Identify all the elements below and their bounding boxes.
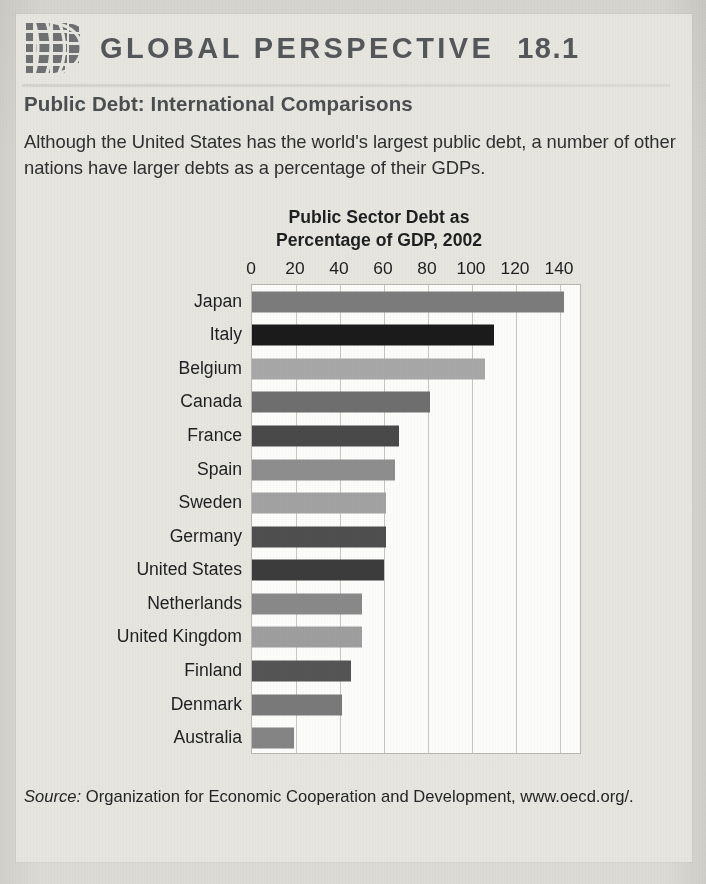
category-label-spain: Spain [197, 458, 242, 479]
category-label-row: Japan [24, 284, 251, 318]
page-root: GLOBAL PERSPECTIVE 18.1 Public Debt: Int… [0, 0, 706, 884]
x-tick-0: 0 [246, 258, 256, 279]
bar-italy [252, 325, 494, 346]
category-label-australia: Australia [174, 727, 242, 748]
x-tick-60: 60 [373, 258, 392, 279]
category-label-denmark: Denmark [171, 693, 242, 714]
category-label-row: Spain [24, 452, 251, 486]
bar-row [252, 587, 580, 621]
category-label-finland: Finland [184, 659, 242, 680]
y-axis-category-labels: JapanItalyBelgiumCanadaFranceSpainSweden… [24, 284, 251, 754]
header-number: 18.1 [517, 32, 579, 64]
bar-germany [252, 526, 386, 547]
bar-row [252, 386, 580, 420]
bar-row [252, 654, 580, 688]
bar-belgium [252, 358, 485, 379]
source-note: Source: Organization for Economic Cooper… [24, 786, 664, 808]
chart-title-line-1: Public Sector Debt as [144, 206, 614, 229]
chart: Public Sector Debt as Percentage of GDP,… [24, 200, 672, 780]
category-label-row: Germany [24, 519, 251, 553]
bar-row [252, 721, 580, 755]
category-label-row: Belgium [24, 351, 251, 385]
category-label-row: Australia [24, 720, 251, 754]
bar-row [252, 352, 580, 386]
bar-row [252, 453, 580, 487]
category-label-row: Sweden [24, 485, 251, 519]
category-label-row: United Kingdom [24, 620, 251, 654]
chart-title-line-2: Percentage of GDP, 2002 [144, 229, 614, 252]
category-label-netherlands: Netherlands [147, 592, 242, 613]
header-divider [22, 84, 670, 87]
header-title: GLOBAL PERSPECTIVE [100, 32, 494, 64]
bar-row [252, 419, 580, 453]
category-label-row: United States [24, 553, 251, 587]
x-tick-40: 40 [329, 258, 348, 279]
article-subtitle: Public Debt: International Comparisons [24, 92, 664, 116]
bar-row [252, 520, 580, 554]
category-label-belgium: Belgium [178, 357, 242, 378]
bar-row [252, 285, 580, 319]
bar-row [252, 688, 580, 722]
category-label-sweden: Sweden [178, 492, 242, 513]
bar-finland [252, 660, 351, 681]
bar-sweden [252, 493, 386, 514]
category-label-japan: Japan [194, 290, 242, 311]
x-tick-140: 140 [544, 258, 573, 279]
header-title-group: GLOBAL PERSPECTIVE 18.1 [100, 32, 580, 65]
plot-area [251, 284, 581, 754]
bar-row [252, 486, 580, 520]
global-perspective-header: GLOBAL PERSPECTIVE 18.1 [22, 16, 662, 80]
x-tick-20: 20 [285, 258, 304, 279]
bar-spain [252, 459, 395, 480]
bar-japan [252, 291, 564, 312]
category-label-france: France [187, 425, 242, 446]
bar-france [252, 426, 399, 447]
category-label-row: Netherlands [24, 586, 251, 620]
bar-row [252, 621, 580, 655]
bar-row [252, 554, 580, 588]
category-label-canada: Canada [180, 391, 242, 412]
bar-canada [252, 392, 430, 413]
x-tick-80: 80 [417, 258, 436, 279]
bar-denmark [252, 694, 342, 715]
category-label-row: Finland [24, 653, 251, 687]
category-label-united-states: United States [136, 559, 242, 580]
x-tick-120: 120 [500, 258, 529, 279]
source-label: Source: [24, 787, 81, 806]
source-text: Organization for Economic Cooperation an… [81, 787, 634, 806]
bars-layer [252, 285, 580, 753]
bar-australia [252, 728, 294, 749]
article-body: Although the United States has the world… [24, 129, 676, 182]
globe-icon [22, 19, 82, 77]
x-tick-100: 100 [456, 258, 485, 279]
x-axis-tick-labels: 020406080100120140 [24, 258, 672, 284]
category-label-row: Canada [24, 385, 251, 419]
chart-title: Public Sector Debt as Percentage of GDP,… [144, 206, 614, 251]
category-label-row: Italy [24, 318, 251, 352]
bar-united-states [252, 560, 384, 581]
bar-united-kingdom [252, 627, 362, 648]
category-label-united-kingdom: United Kingdom [117, 626, 242, 647]
category-label-germany: Germany [170, 525, 242, 546]
bar-netherlands [252, 593, 362, 614]
category-label-row: Denmark [24, 687, 251, 721]
category-label-italy: Italy [210, 324, 242, 345]
category-label-row: France [24, 418, 251, 452]
bar-row [252, 319, 580, 353]
